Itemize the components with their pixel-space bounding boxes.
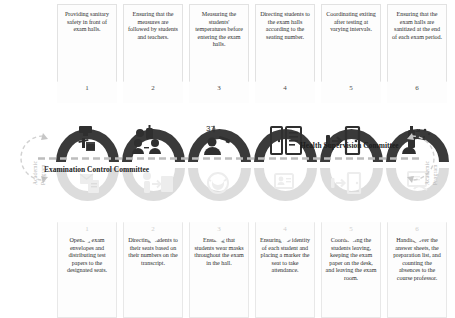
step-description: Handing over the answer sheets, the prep… (391, 237, 443, 283)
bottom-step-card: 6Handing over the answer sheets, the pre… (387, 222, 447, 318)
top-step-card: Ensuring that the exam halls are sanitiz… (387, 4, 447, 103)
left-cycle-label-program: Program (40, 164, 46, 185)
step-card-body: Directing students to the exam halls acc… (255, 4, 315, 103)
step-description: Directing students to their seats based … (127, 237, 179, 267)
step-card-body: Ensuring that the exam halls are sanitiz… (387, 4, 447, 103)
step-card-body: Ensuring the identity of each student an… (255, 222, 315, 318)
step-card-body: Providing sanitary safety in front of ex… (57, 4, 117, 103)
step-description: Ensuring that the exam halls are sanitiz… (391, 11, 443, 41)
right-cycle-label-academic: Academic (424, 161, 430, 185)
step-description: Opening exam envelopes and distributing … (61, 237, 113, 275)
face-mask-icon (208, 173, 228, 193)
step-number: 1 (85, 84, 89, 92)
step-card-body: Coordinating exiting after testing at va… (321, 4, 381, 103)
bottom-step-card: 2Directing students to their seats based… (123, 222, 183, 318)
top-step-card: Directing students to the exam halls acc… (255, 4, 315, 103)
step-number: 2 (151, 84, 155, 92)
top-step-card: Providing sanitary safety in front of ex… (57, 4, 117, 103)
step-card-body: Coordinating the students leaving, keepi… (321, 222, 381, 318)
left-cycle-label-academic: Academic (32, 161, 38, 185)
step-description: Directing students to the exam halls acc… (259, 11, 311, 41)
id-card-icon (275, 174, 293, 188)
right-cycle-label-program: Program (432, 164, 438, 185)
step-card-body: Ensuring that students wear masks throug… (189, 222, 249, 318)
step-card-body: Opening exam envelopes and distributing … (57, 222, 117, 318)
step-description: Ensuring that students wear masks throug… (193, 237, 245, 267)
top-step-card: Ensuring that the measures are followed … (123, 4, 183, 103)
step-card-body: Ensuring that the measures are followed … (123, 4, 183, 103)
examination-control-committee-label: Examination Control Committee (44, 165, 149, 174)
band-graphic: 37 (0, 106, 455, 206)
step-description: Coordinating exiting after testing at va… (325, 11, 377, 34)
step-number: 3 (217, 84, 221, 92)
bottom-step-card: 4Ensuring the identity of each student a… (255, 222, 315, 318)
step-number: 5 (349, 84, 353, 92)
step-description: Measuring the students' temperatures bef… (193, 11, 245, 49)
process-band: 37 (0, 106, 455, 206)
bottom-step-card: 5Coordinating the students leaving, keep… (321, 222, 381, 318)
direct-seat-icon (143, 172, 173, 193)
top-steps-row: Providing sanitary safety in front of ex… (57, 4, 455, 103)
health-supervision-committee-label: Health Supervision Committee (300, 141, 399, 150)
step-card-body: Directing students to their seats based … (123, 222, 183, 318)
bottom-step-card: 3Ensuring that students wear masks throu… (189, 222, 249, 318)
step-number: 4 (283, 84, 287, 92)
step-description: Providing sanitary safety in front of ex… (61, 11, 113, 34)
step-card-body: Handing over the answer sheets, the prep… (387, 222, 447, 318)
step-description: Ensuring that the measures are followed … (127, 11, 179, 41)
step-number: 6 (415, 84, 419, 92)
step-description: Ensuring the identity of each student an… (259, 237, 311, 275)
step-description: Coordinating the students leaving, keepi… (325, 237, 377, 283)
envelope-papers-icon (80, 174, 99, 193)
bottom-steps-row: 1Opening exam envelopes and distributing… (57, 222, 455, 318)
top-step-card: Coordinating exiting after testing at va… (321, 4, 381, 103)
bottom-step-card: 1Opening exam envelopes and distributing… (57, 222, 117, 318)
top-step-card: Measuring the students' temperatures bef… (189, 4, 249, 103)
step-card-body: Measuring the students' temperatures bef… (189, 4, 249, 103)
